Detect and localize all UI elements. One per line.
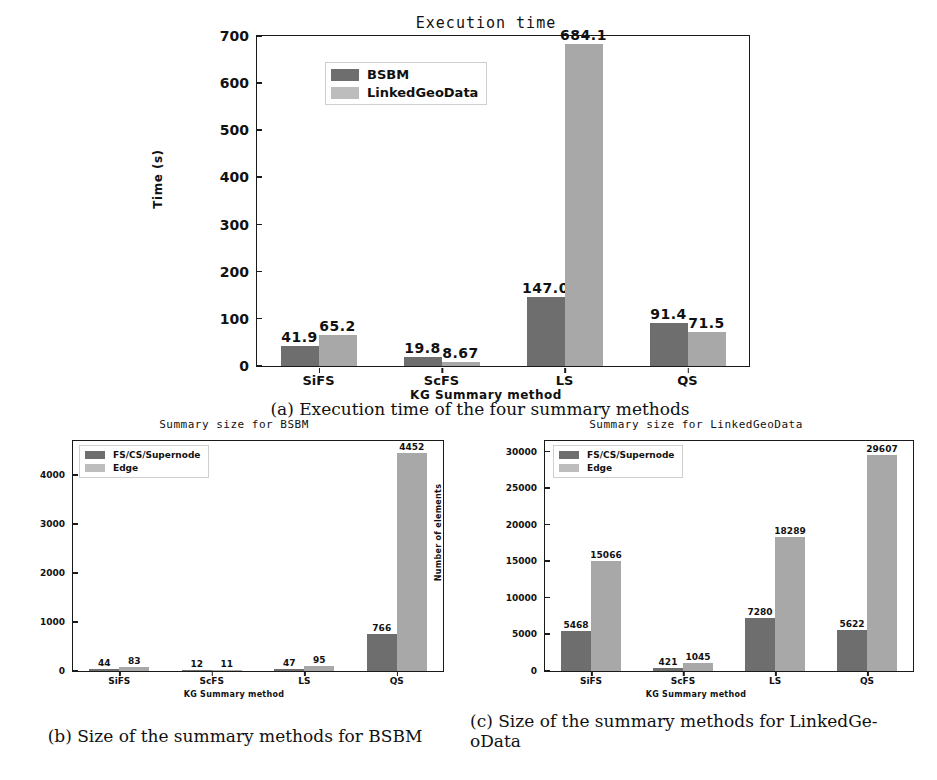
bar xyxy=(837,630,867,671)
bar-value-label: 1045 xyxy=(685,652,710,662)
bar xyxy=(212,670,242,672)
bar xyxy=(89,669,119,671)
legend-label-fs-cs-supernode: FS/CS/Supernode xyxy=(587,450,674,460)
x-axis-tick: QS xyxy=(677,373,697,388)
chart-c-xlabel: KG Summary method xyxy=(466,690,926,699)
caption-c-line2: oData xyxy=(470,732,922,752)
chart-c-title: Summary size for LinkedGeoData xyxy=(466,418,926,431)
chart-b-title: Summary size for BSBM xyxy=(14,418,454,431)
legend-swatch-fs-cs-supernode xyxy=(559,451,579,459)
bar xyxy=(688,332,726,366)
legend-label-edge: Edge xyxy=(113,463,138,473)
bar xyxy=(274,669,304,671)
bar-value-label: 91.4 xyxy=(650,306,687,322)
y-axis-tick: 30000 xyxy=(506,447,545,457)
bar xyxy=(281,346,319,366)
y-axis-tick: 0 xyxy=(59,666,73,676)
figure-root: Execution time Time (s) 41.965.219.88.67… xyxy=(0,0,937,780)
y-axis-tick: 10000 xyxy=(506,593,545,603)
x-axis-tick: SiFS xyxy=(108,676,130,686)
chart-b-legend: FS/CS/Supernode Edge xyxy=(79,445,209,478)
bar xyxy=(404,357,442,366)
y-axis-tick: 15000 xyxy=(506,556,545,566)
y-axis-tick: 4000 xyxy=(40,470,73,480)
legend-swatch-fs-cs-supernode xyxy=(85,451,105,459)
chart-summary-size-linkedgeodata: Summary size for LinkedGeoData Number of… xyxy=(466,418,926,708)
bar xyxy=(653,668,683,671)
bar xyxy=(527,297,565,366)
y-axis-tick: 400 xyxy=(220,169,257,185)
y-axis-tick: 0 xyxy=(239,358,257,374)
bar-value-label: 421 xyxy=(659,657,678,667)
legend-label-edge: Edge xyxy=(587,463,612,473)
bar xyxy=(561,631,591,671)
caption-c: (c) Size of the summary methods for Link… xyxy=(470,712,922,751)
legend-item-bsbm: BSBM xyxy=(331,67,478,82)
bar xyxy=(397,453,427,671)
chart-execution-time: Execution time Time (s) 41.965.219.88.67… xyxy=(196,14,776,414)
bar-value-label: 41.9 xyxy=(281,329,318,345)
y-axis-tick: 0 xyxy=(531,666,545,676)
bar-value-label: 83 xyxy=(128,656,141,666)
x-axis-tick: ScFS xyxy=(424,373,459,388)
bar xyxy=(182,670,212,672)
chart-c-plot-area: 5468150664211045728018289562229607 FS/CS… xyxy=(544,440,914,672)
bar-value-label: 5468 xyxy=(563,620,588,630)
y-axis-tick: 1000 xyxy=(40,617,73,627)
bar xyxy=(565,44,603,367)
x-axis-tick: QS xyxy=(860,676,874,686)
bar xyxy=(119,667,149,671)
legend-label-linkedgeodata: LinkedGeoData xyxy=(367,85,478,100)
y-axis-tick: 600 xyxy=(220,75,257,91)
x-axis-tick: LS xyxy=(769,676,781,686)
bar-value-label: 684.1 xyxy=(560,27,607,43)
bar-value-label: 71.5 xyxy=(688,315,725,331)
legend-item-fs-cs-supernode: FS/CS/Supernode xyxy=(559,450,674,460)
legend-item-edge: Edge xyxy=(85,463,200,473)
bar xyxy=(442,362,480,366)
y-axis-tick: 700 xyxy=(220,28,257,44)
bar-value-label: 766 xyxy=(372,623,391,633)
bar xyxy=(683,663,713,671)
y-axis-tick: 300 xyxy=(220,217,257,233)
bar-value-label: 19.8 xyxy=(404,340,441,356)
bar-value-label: 8.67 xyxy=(442,345,479,361)
chart-c-ylabel: Number of elements xyxy=(434,463,443,603)
y-axis-tick: 500 xyxy=(220,122,257,138)
chart-b-plot-area: 4483121147957664452 FS/CS/Supernode Edge… xyxy=(72,440,444,672)
bar xyxy=(367,634,397,671)
chart-summary-size-bsbm: Summary size for BSBM Number of elements… xyxy=(14,418,454,708)
bar xyxy=(591,561,621,671)
x-axis-tick: LS xyxy=(556,373,574,388)
caption-a: (a) Execution time of the four summary m… xyxy=(245,399,715,419)
x-axis-tick: QS xyxy=(390,676,404,686)
bar-value-label: 18289 xyxy=(774,526,805,536)
bar xyxy=(650,323,688,366)
y-axis-tick: 2000 xyxy=(40,568,73,578)
bar-value-label: 147.0 xyxy=(522,280,569,296)
bar-value-label: 47 xyxy=(283,658,296,668)
chart-a-plot-area: 41.965.219.88.67147.0684.191.471.5 BSBM … xyxy=(256,35,750,367)
legend-label-fs-cs-supernode: FS/CS/Supernode xyxy=(113,450,200,460)
bar-value-label: 44 xyxy=(98,658,111,668)
bar-value-label: 95 xyxy=(313,655,326,665)
caption-b: (b) Size of the summary methods for BSBM xyxy=(20,726,450,746)
bar-value-label: 15066 xyxy=(590,550,621,560)
bar-value-label: 4452 xyxy=(399,442,424,452)
y-axis-tick: 3000 xyxy=(40,519,73,529)
chart-a-title: Execution time xyxy=(196,14,776,32)
bar-value-label: 7280 xyxy=(747,607,772,617)
y-axis-tick: 20000 xyxy=(506,520,545,530)
y-axis-tick: 100 xyxy=(220,311,257,327)
chart-a-legend: BSBM LinkedGeoData xyxy=(325,62,487,105)
bar xyxy=(319,335,357,366)
legend-item-linkedgeodata: LinkedGeoData xyxy=(331,85,478,100)
bar xyxy=(304,666,334,671)
legend-item-fs-cs-supernode: FS/CS/Supernode xyxy=(85,450,200,460)
legend-swatch-edge xyxy=(85,464,105,472)
x-axis-tick: ScFS xyxy=(671,676,695,686)
chart-c-legend: FS/CS/Supernode Edge xyxy=(553,445,683,478)
y-axis-tick: 5000 xyxy=(512,629,545,639)
legend-label-bsbm: BSBM xyxy=(367,67,409,82)
y-axis-tick: 25000 xyxy=(506,483,545,493)
